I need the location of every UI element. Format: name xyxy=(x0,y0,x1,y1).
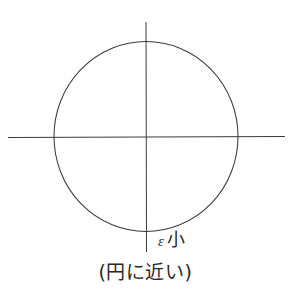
conic-section-diagram xyxy=(0,0,291,293)
epsilon-symbol: ε xyxy=(158,233,164,249)
epsilon-qualifier-kanji: 小 xyxy=(167,229,185,250)
figure-caption: (円に近い) xyxy=(0,263,291,282)
vertical-axis-line xyxy=(146,22,147,252)
figure-container: ε小 (円に近い) xyxy=(0,0,291,293)
eccentricity-label: ε小 xyxy=(158,231,185,249)
